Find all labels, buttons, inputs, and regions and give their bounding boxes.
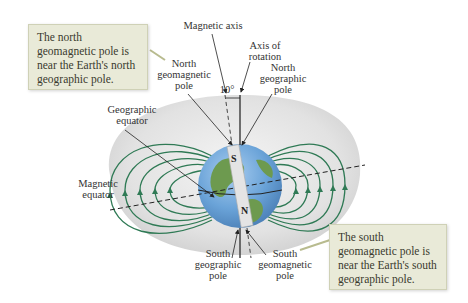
- label-axis-of-rotation: Axis of rotation: [240, 40, 290, 62]
- magnetic-field-diagram: S N The north geomagnetic pole is near t…: [0, 0, 468, 303]
- magnet-north-letter: N: [241, 205, 249, 216]
- label-geographic-equator: Geographic equator: [100, 104, 164, 126]
- north-pole-callout: The north geomagnetic pole is near the E…: [28, 24, 148, 90]
- label-magnetic-equator: Magnetic equator: [70, 178, 126, 200]
- label-magnetic-axis: Magnetic axis: [168, 20, 258, 31]
- label-north-geographic-pole: North geographic pole: [248, 62, 318, 95]
- label-north-geomagnetic-pole: North geomagnetic pole: [150, 58, 218, 91]
- label-south-geographic-pole: South geographic pole: [185, 248, 251, 281]
- label-south-geomagnetic-pole: South geomagnetic pole: [250, 248, 320, 281]
- label-angle-10: 10°: [215, 84, 239, 95]
- south-pole-callout: The south geomagnetic pole is near the E…: [329, 224, 447, 290]
- magnet-south-letter: S: [231, 153, 237, 164]
